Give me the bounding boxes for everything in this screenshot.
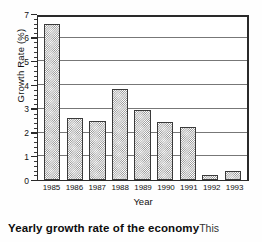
- x-tick-label: 1990: [154, 183, 177, 192]
- bar: [67, 118, 83, 180]
- caption-bold: Yearly growth rate of the economy: [8, 222, 199, 234]
- bar: [157, 122, 173, 180]
- figure: Growth Rate (%) 01234567 198519861987198…: [0, 0, 262, 242]
- bar-slot: [41, 17, 64, 180]
- plot-area: [37, 15, 249, 181]
- y-tick-label: 2: [24, 129, 29, 138]
- y-tick-label: 5: [24, 58, 29, 67]
- x-tick-label: 1991: [177, 183, 200, 192]
- y-tick-label: 0: [24, 177, 29, 186]
- x-tick-label: 1993: [223, 183, 246, 192]
- bar: [202, 175, 218, 180]
- bar: [112, 89, 128, 180]
- x-axis-title: Year: [37, 196, 249, 207]
- bar-slot: [131, 17, 154, 180]
- x-axis-tick-labels: 198519861987198819891990199119921993: [37, 183, 249, 192]
- bar-slot: [154, 17, 177, 180]
- bar: [134, 110, 150, 180]
- bar: [89, 121, 105, 180]
- bar-slot: [86, 17, 109, 180]
- bar-slot: [109, 17, 132, 180]
- bar-slot: [176, 17, 199, 180]
- bar-series: [38, 17, 247, 180]
- bar: [180, 127, 196, 180]
- y-tick-label: 1: [24, 153, 29, 162]
- y-tick-label: 6: [24, 34, 29, 43]
- x-tick-label: 1989: [132, 183, 155, 192]
- y-tick-label: 3: [24, 106, 29, 115]
- x-tick-label: 1987: [86, 183, 109, 192]
- y-tick-label: 4: [24, 82, 29, 91]
- figure-caption: Yearly growth rate of the economyThis: [8, 222, 256, 235]
- x-tick-label: 1986: [63, 183, 86, 192]
- caption-rest: This: [199, 222, 219, 234]
- x-tick-label: 1985: [40, 183, 63, 192]
- y-tick-label: 7: [24, 11, 29, 20]
- bar: [44, 24, 60, 181]
- bar-slot: [199, 17, 222, 180]
- x-tick-label: 1988: [109, 183, 132, 192]
- x-tick-label: 1992: [200, 183, 223, 192]
- bar-slot: [222, 17, 245, 180]
- bar: [225, 171, 241, 180]
- bar-slot: [64, 17, 87, 180]
- y-axis-ticks: 01234567: [0, 15, 37, 181]
